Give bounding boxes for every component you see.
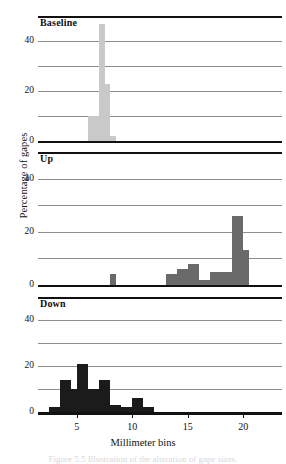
x-tick-label-20: 20 [238,422,248,432]
bars-baseline [38,16,282,141]
bars-up [38,152,282,285]
x-axis-line [38,414,282,415]
bars-down [38,297,282,412]
panel-down: Down02040 [38,297,282,415]
x-tick-mark-5 [77,414,78,418]
panel-baseline: Baseline02040 [38,16,282,144]
y-tick-label-20: 20 [0,361,34,371]
panel-up: Up02040 [38,152,282,288]
y-tick-label-40: 40 [0,174,34,184]
y-tick-label-40: 40 [0,36,34,46]
panel-title-down: Down [40,298,66,309]
y-tick-label-0: 0 [0,280,34,290]
y-tick-label-40: 40 [0,315,34,325]
bar [110,274,116,285]
x-tick-mark-10 [132,414,133,418]
x-tick-mark-15 [188,414,189,418]
figure-caption: Figure 5.5 Illustration of the alteratio… [0,454,286,464]
panel-title-up: Up [40,153,53,164]
x-tick-label-10: 10 [127,422,137,432]
panel-baseline-rule [38,285,282,287]
x-axis-label: Millimeter bins [0,437,286,448]
bar [105,84,111,142]
x-tick-label-5: 5 [74,422,79,432]
y-tick-label-0: 0 [0,407,34,417]
x-tick-mark-20 [243,414,244,418]
panel-title-baseline: Baseline [40,17,77,28]
y-tick-label-0: 0 [0,136,34,146]
bar [243,250,249,285]
panel-baseline-rule [38,141,282,143]
y-tick-label-20: 20 [0,227,34,237]
y-tick-label-20: 20 [0,86,34,96]
x-tick-label-15: 15 [183,422,193,432]
